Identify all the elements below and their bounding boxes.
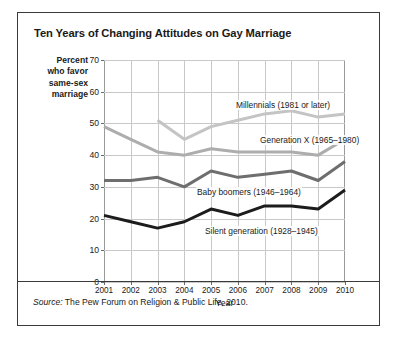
y-axis-title-line-3: same-sex: [26, 78, 88, 89]
series-line: [104, 161, 345, 186]
source-label: Source:: [33, 297, 63, 307]
x-tick-mark: [265, 282, 266, 285]
series-label: Silent generation (1928–1945): [204, 226, 319, 236]
y-axis-title: Percent who favor same-sex marriage: [26, 55, 88, 101]
figure-panel: Ten Years of Changing Attitudes on Gay M…: [17, 12, 380, 326]
y-tick-label: 20: [89, 214, 99, 224]
x-tick-mark: [131, 282, 132, 285]
y-axis-title-line-1: Percent: [26, 55, 88, 66]
series-label: Millennials (1981 or later): [235, 100, 331, 110]
y-tick-label: 30: [89, 182, 99, 192]
footer-divider: [18, 281, 379, 282]
x-tick-label: 2006: [229, 286, 247, 295]
y-axis-title-line-4: marriage: [26, 89, 88, 100]
source-text: The Pew Forum on Religion & Public Life,…: [63, 297, 248, 307]
x-tick-mark: [345, 282, 346, 285]
x-tick-label: 2009: [309, 286, 327, 295]
y-axis-title-line-2: who favor: [26, 66, 88, 77]
x-tick-mark: [104, 282, 105, 285]
y-tick-label: 10: [89, 245, 99, 255]
x-tick-label: 2008: [282, 286, 300, 295]
x-tick-label: 2004: [175, 286, 193, 295]
x-tick-label: 2010: [336, 286, 354, 295]
x-tick-label: 2007: [256, 286, 274, 295]
x-tick-mark: [184, 282, 185, 285]
y-tick-label: 60: [89, 87, 99, 97]
y-tick-label: 40: [89, 150, 99, 160]
y-tick-label: 50: [89, 118, 99, 128]
x-tick-mark: [291, 282, 292, 285]
x-tick-label: 2005: [202, 286, 220, 295]
x-tick-label: 2001: [95, 286, 113, 295]
x-tick-mark: [158, 282, 159, 285]
series-label: Generation X (1965–1980): [259, 135, 360, 145]
chart-title: Ten Years of Changing Attitudes on Gay M…: [34, 27, 291, 39]
series-lines: [104, 60, 345, 282]
x-tick-mark: [211, 282, 212, 285]
x-tick-label: 2003: [148, 286, 166, 295]
series-label: Baby boomers (1946–1964): [196, 187, 302, 197]
x-tick-label: 2002: [122, 286, 140, 295]
x-tick-mark: [318, 282, 319, 285]
source-note: Source: The Pew Forum on Religion & Publ…: [33, 297, 248, 307]
x-tick-mark: [238, 282, 239, 285]
y-tick-label: 70: [89, 55, 99, 65]
gridline-horizontal: [104, 282, 345, 283]
plot-area: 010203040506070 200120022003200420052006…: [104, 60, 345, 282]
